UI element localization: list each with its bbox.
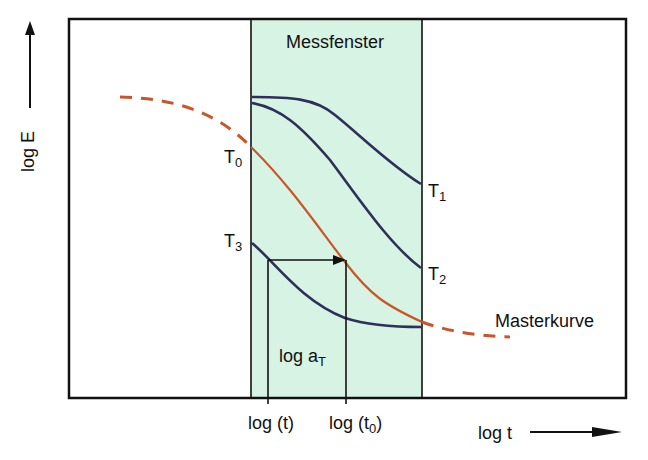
x-axis-arrow-icon (592, 427, 622, 437)
x-axis-label: log t (478, 424, 512, 442)
shift-factor-label: log aT (279, 347, 326, 368)
master-curve-label: Masterkurve (495, 312, 594, 330)
tick-log-t: log (t) (248, 414, 294, 432)
tick-log-t0: log (t0) (329, 414, 382, 435)
master-curve-diagram: log E Messfenster T0 T1 T2 T3 Masterkurv… (0, 0, 648, 460)
measurement-window (251, 19, 422, 398)
y-axis-arrow-icon (25, 21, 35, 35)
master-curve-dashed-left (120, 97, 251, 147)
diagram-canvas (0, 0, 648, 460)
label-t0: T0 (224, 148, 242, 169)
y-axis-label: log E (18, 131, 39, 172)
label-t3: T3 (224, 232, 242, 253)
label-t2: T2 (428, 265, 446, 286)
window-label: Messfenster (286, 33, 384, 51)
label-t1: T1 (428, 182, 446, 203)
